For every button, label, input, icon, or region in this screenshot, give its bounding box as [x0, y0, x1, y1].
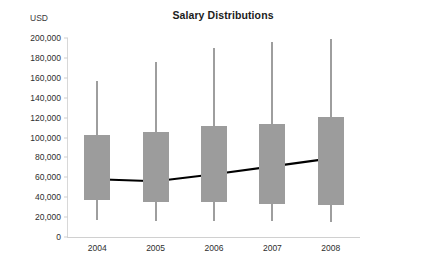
- box-plot-box: [318, 117, 344, 206]
- box-plot-box: [143, 132, 169, 203]
- y-tick-label: 200,000: [0, 33, 68, 43]
- box-plot-box: [84, 135, 110, 201]
- x-tick-label: 2005: [146, 243, 165, 253]
- x-tick-label: 2006: [205, 243, 224, 253]
- x-tick-label: 2008: [321, 243, 340, 253]
- y-axis-label: USD: [30, 13, 48, 23]
- y-tick-label: 140,000: [0, 93, 68, 103]
- box-plot-box: [259, 124, 285, 205]
- y-tick-label: 20,000: [0, 212, 68, 222]
- chart-title: Salary Distributions: [0, 9, 430, 21]
- chart-container: Salary Distributions USD 200,000180,0001…: [0, 0, 430, 272]
- x-tick-label: 2007: [263, 243, 282, 253]
- y-tick-label: 100,000: [0, 133, 68, 143]
- y-tick-label: 40,000: [0, 192, 68, 202]
- y-tick-label: 0: [0, 232, 68, 242]
- x-axis-line: [67, 237, 360, 238]
- y-tick-label: 120,000: [0, 113, 68, 123]
- x-tick-label: 2004: [88, 243, 107, 253]
- y-tick-label: 180,000: [0, 53, 68, 63]
- y-tick-label: 60,000: [0, 172, 68, 182]
- box-plot-box: [201, 126, 227, 203]
- y-tick-label: 160,000: [0, 73, 68, 83]
- y-tick-label: 80,000: [0, 152, 68, 162]
